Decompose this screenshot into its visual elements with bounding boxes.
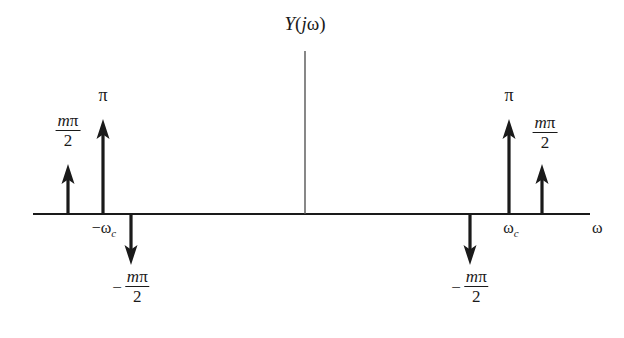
title-omega: ω [307, 13, 320, 34]
label-carrier-negative-magnitude: π [98, 86, 107, 104]
fraction-m-pi-over-2: mπ 2 [464, 268, 489, 305]
fraction-numerator: mπ [125, 268, 150, 287]
fraction-denominator: 2 [125, 287, 150, 305]
fraction-numerator: mπ [56, 112, 81, 131]
symbol-m: m [127, 267, 139, 286]
label-lower-sideband-right-magnitude: mπ 2 [533, 114, 558, 151]
title-function: Y [284, 13, 295, 34]
label-upper-sideband-left-magnitude: − mπ 2 [112, 268, 149, 305]
title-paren-close: ) [319, 13, 325, 34]
minus-sign: − [451, 279, 461, 296]
impulse-carrier-negative [97, 119, 110, 214]
symbol-m: m [466, 267, 478, 286]
tick-label-negative-omega-c: −ωc [92, 220, 116, 239]
fraction-m-pi-over-2: mπ 2 [125, 268, 150, 305]
impulse-lower-sideband-right [536, 164, 549, 214]
negative-fraction: − mπ 2 [451, 268, 488, 305]
impulse-upper-sideband-left [125, 214, 138, 265]
tick-omega-neg: −ω [92, 219, 112, 236]
tick-subscript-c: c [111, 227, 116, 239]
symbol-pi: π [139, 267, 148, 286]
symbol-pi: π [547, 113, 556, 132]
negative-fraction: − mπ 2 [112, 268, 149, 305]
impulse-upper-sideband-right [464, 214, 477, 265]
tick-subscript-c: c [514, 227, 519, 239]
label-lower-sideband-left-magnitude: mπ 2 [56, 112, 81, 149]
fraction-m-pi-over-2: mπ 2 [56, 112, 81, 149]
fraction-numerator: mπ [533, 114, 558, 133]
impulse-lower-sideband-left [62, 164, 75, 214]
figure-canvas: Y(jω) mπ 2 π −ωc − mπ 2 − mπ 2 [0, 0, 624, 338]
plot-title: Y(jω) [284, 14, 325, 33]
symbol-m: m [58, 111, 70, 130]
spectrum-plot [0, 0, 624, 338]
impulse-carrier-positive [503, 119, 516, 214]
label-carrier-positive-magnitude: π [504, 86, 513, 104]
symbol-pi: π [70, 111, 79, 130]
fraction-m-pi-over-2: mπ 2 [533, 114, 558, 151]
fraction-denominator: 2 [533, 133, 558, 151]
symbol-m: m [535, 113, 547, 132]
axis-label-omega: ω [592, 220, 603, 236]
tick-label-positive-omega-c: ωc [503, 220, 518, 239]
minus-sign: − [112, 279, 122, 296]
tick-omega-pos: ω [503, 219, 514, 236]
label-upper-sideband-right-magnitude: − mπ 2 [451, 268, 488, 305]
symbol-pi: π [478, 267, 487, 286]
fraction-numerator: mπ [464, 268, 489, 287]
fraction-denominator: 2 [464, 287, 489, 305]
fraction-denominator: 2 [56, 131, 81, 149]
